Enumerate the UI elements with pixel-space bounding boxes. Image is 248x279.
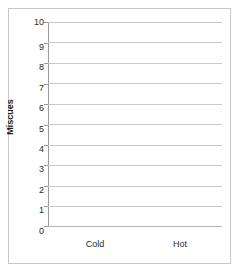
y-tick-label-7: 7 xyxy=(10,84,44,93)
gridline-6 xyxy=(48,104,222,105)
y-tick-label-4: 4 xyxy=(10,145,44,154)
y-tick-label-2: 2 xyxy=(10,186,44,195)
y-axis-tick-labels: 0 1 2 3 4 5 6 7 8 9 10 xyxy=(6,0,44,279)
y-tick-label-0: 0 xyxy=(10,227,44,236)
y-tick-label-10: 10 xyxy=(10,18,44,27)
y-tick-label-8: 8 xyxy=(10,63,44,72)
x-tick-label-cold: Cold xyxy=(60,239,130,249)
y-tick-label-3: 3 xyxy=(10,165,44,174)
chart-figure: Miscues 0 1 2 3 4 5 6 7 8 9 10 xyxy=(0,0,248,279)
y-tick-label-6: 6 xyxy=(10,104,44,113)
gridline-0-baseline xyxy=(48,226,222,227)
gridline-4 xyxy=(48,145,222,146)
y-tick-label-9: 9 xyxy=(10,43,44,52)
y-tick-label-1: 1 xyxy=(10,206,44,215)
gridline-8 xyxy=(48,63,222,64)
gridline-2 xyxy=(48,186,222,187)
plot-area xyxy=(48,22,222,226)
gridline-5 xyxy=(48,124,222,125)
y-tick-label-5: 5 xyxy=(10,125,44,134)
gridline-1 xyxy=(48,206,222,207)
x-tick-label-hot: Hot xyxy=(145,239,215,249)
gridline-3 xyxy=(48,165,222,166)
gridline-9 xyxy=(48,42,222,43)
gridline-7 xyxy=(48,83,222,84)
gridline-10 xyxy=(48,22,222,23)
